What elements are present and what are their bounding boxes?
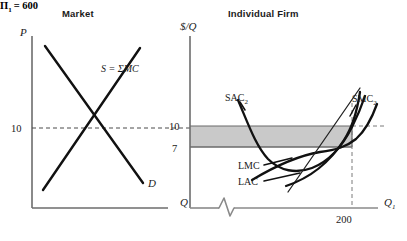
lac-curve-label: LAC [238, 176, 258, 187]
lmc-curve-label: LMC [238, 160, 260, 171]
sac2-label-text: SAC [225, 92, 244, 103]
firm-x-axis-label: Q1 [384, 196, 395, 211]
sac2-curve-label: SAC2 [225, 92, 248, 106]
economics-figure: Market Individual Firm P Q 10 S = ΣMC D [0, 0, 407, 241]
firm-x-axis-label-subscript: 1 [392, 203, 396, 211]
smc2-label-text: SMC [352, 93, 373, 104]
smc2-label-subscript: 2 [373, 99, 377, 107]
firm-x-axis-label-text: Q [384, 196, 392, 208]
firm-y-axis-label: $/Q [180, 20, 197, 32]
firm-plot [0, 0, 407, 241]
firm-x-axis-break-icon [219, 198, 234, 216]
profit-shaded-region [190, 126, 352, 147]
firm-quantity-tick-200: 200 [336, 214, 352, 225]
lac-leader-line [264, 173, 300, 181]
firm-price-tick-7: 7 [172, 143, 177, 154]
smc2-curve-label: SMC2 [352, 93, 377, 107]
sac2-label-subscript: 2 [244, 98, 248, 106]
firm-price-tick-10: 10 [169, 121, 180, 132]
